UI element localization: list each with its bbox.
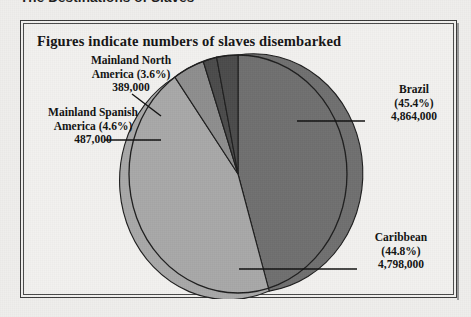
callout-brazil-percent: (45.4%) — [368, 97, 460, 111]
figure-frame: Figures indicate numbers of slaves disem… — [20, 20, 457, 298]
callout-caribbean-name: Caribbean — [351, 231, 451, 245]
callout-spanish-america: Mainland Spanish America (4.6%) 487,000 — [23, 106, 163, 147]
callout-brazil-name: Brazil — [368, 83, 460, 97]
callout-caribbean-value: 4,798,000 — [351, 258, 451, 272]
callout-north-america-value: 389,000 — [67, 81, 195, 95]
callout-caribbean-percent: (44.8%) — [351, 245, 451, 259]
callout-brazil: Brazil (45.4%) 4,864,000 — [368, 83, 460, 124]
callout-north-america: Mainland North America (3.6%) 389,000 — [67, 54, 195, 95]
callout-spanish-america-value: 487,000 — [23, 133, 163, 147]
callout-caribbean: Caribbean (44.8%) 4,798,000 — [351, 231, 451, 272]
callout-north-america-line1: Mainland North — [67, 54, 195, 68]
callout-brazil-value: 4,864,000 — [368, 110, 460, 124]
callout-spanish-america-line2: America (4.6%) — [23, 120, 163, 134]
page-title: The Destinations of Slaves — [20, 0, 320, 4]
callout-north-america-line2: America (3.6%) — [67, 68, 195, 82]
callout-spanish-america-line1: Mainland Spanish — [23, 106, 163, 120]
